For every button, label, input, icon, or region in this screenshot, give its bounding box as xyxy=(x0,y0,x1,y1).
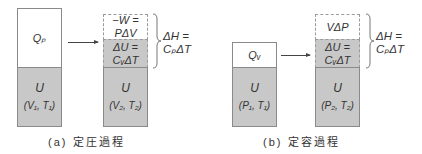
heat-label-a: Qₚ xyxy=(33,32,47,45)
process-arrow-b xyxy=(281,55,310,56)
process-arrow-a xyxy=(68,42,98,43)
heat-label-b: Qᵥ xyxy=(248,49,261,62)
enthalpy-label-b-line2: CₚΔT xyxy=(376,43,404,56)
du-label-a-line2: CᵥΔT xyxy=(113,54,139,67)
work-box-a: −W = PΔV xyxy=(103,14,148,40)
enthalpy-label-a-line1: ΔH = xyxy=(163,30,189,43)
internal-energy-box-b1: U (P₁, T₁) xyxy=(232,67,277,127)
du-label-a-line1: ΔU = xyxy=(113,41,138,54)
du-label-b-line2: CᵥΔT xyxy=(325,54,351,67)
state-label-a1: (V₁, T₁) xyxy=(24,99,55,112)
du-label-b-line1: ΔU = xyxy=(325,41,350,54)
heat-box-a: Qₚ xyxy=(17,8,62,68)
enthalpy-label-b-line1: ΔH = xyxy=(376,30,402,43)
internal-energy-box-b2: U (P₂, T₂) xyxy=(315,67,360,127)
work-label-a-line1: −W = xyxy=(112,14,138,27)
state-label-b1: (P₁, T₁) xyxy=(239,99,270,112)
work-label-b: VΔP xyxy=(326,21,348,34)
caption-a: (a) 定圧過程 xyxy=(48,133,125,149)
heat-box-b: Qᵥ xyxy=(232,42,277,68)
state-label-b2: (P₂, T₂) xyxy=(321,99,354,112)
delta-u-box-a: ΔU = CᵥΔT xyxy=(103,39,148,68)
enthalpy-label-a-line2: CₚΔT xyxy=(163,43,191,56)
caption-b: (b) 定容過程 xyxy=(263,133,340,149)
energy-label-b1: U xyxy=(250,82,259,95)
brace-icon-b xyxy=(365,13,375,69)
brace-icon-a xyxy=(152,13,162,69)
delta-u-box-b: ΔU = CᵥΔT xyxy=(315,39,360,68)
internal-energy-box-a1: U (V₁, T₁) xyxy=(17,67,62,127)
energy-label-a1: U xyxy=(35,82,44,95)
internal-energy-box-a2: U (V₂, T₂) xyxy=(103,67,148,127)
energy-label-b2: U xyxy=(333,82,342,95)
state-label-a2: (V₂, T₂) xyxy=(109,99,142,112)
work-box-b: VΔP xyxy=(315,14,360,40)
energy-label-a2: U xyxy=(121,82,130,95)
